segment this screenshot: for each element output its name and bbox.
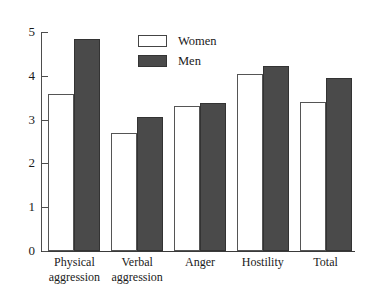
- bar-men-anger: [200, 103, 226, 251]
- bar-men-physical-aggression: [74, 39, 100, 251]
- legend-swatch-women-icon: [138, 35, 167, 47]
- legend-item-men: Men: [138, 53, 248, 69]
- legend-label-women: Women: [178, 34, 217, 48]
- y-tick-0: 0: [42, 251, 48, 252]
- bar-men-hostility: [263, 66, 289, 251]
- bar-chart-figure: c 012345 PhysicalaggressionVerbalaggress…: [0, 0, 373, 300]
- x-label-total: Total: [284, 255, 367, 270]
- y-tick-label-5: 5: [29, 24, 36, 39]
- y-tick-label-4: 4: [29, 68, 36, 83]
- y-tick-label-1: 1: [29, 199, 36, 214]
- x-label-line: aggression: [96, 270, 179, 285]
- x-axis-line: [41, 251, 355, 252]
- bar-women-hostility: [237, 74, 263, 251]
- bar-men-total: [326, 78, 352, 251]
- bar-women-total: [300, 102, 326, 251]
- bar-men-verbal-aggression: [137, 117, 163, 251]
- y-tick-label-2: 2: [29, 155, 36, 170]
- bar-women-physical-aggression: [48, 94, 74, 251]
- chart-legend: Women Men: [138, 33, 248, 73]
- y-axis-title-fragment: c: [0, 18, 8, 28]
- x-label-line: Total: [284, 255, 367, 270]
- bar-women-anger: [174, 106, 200, 251]
- x-axis-category-labels: PhysicalaggressionVerbalaggressionAngerH…: [41, 255, 355, 297]
- legend-item-women: Women: [138, 33, 248, 49]
- bar-women-verbal-aggression: [111, 133, 137, 251]
- y-tick-label-3: 3: [29, 112, 36, 127]
- legend-label-men: Men: [178, 54, 201, 68]
- legend-swatch-men-icon: [138, 55, 167, 67]
